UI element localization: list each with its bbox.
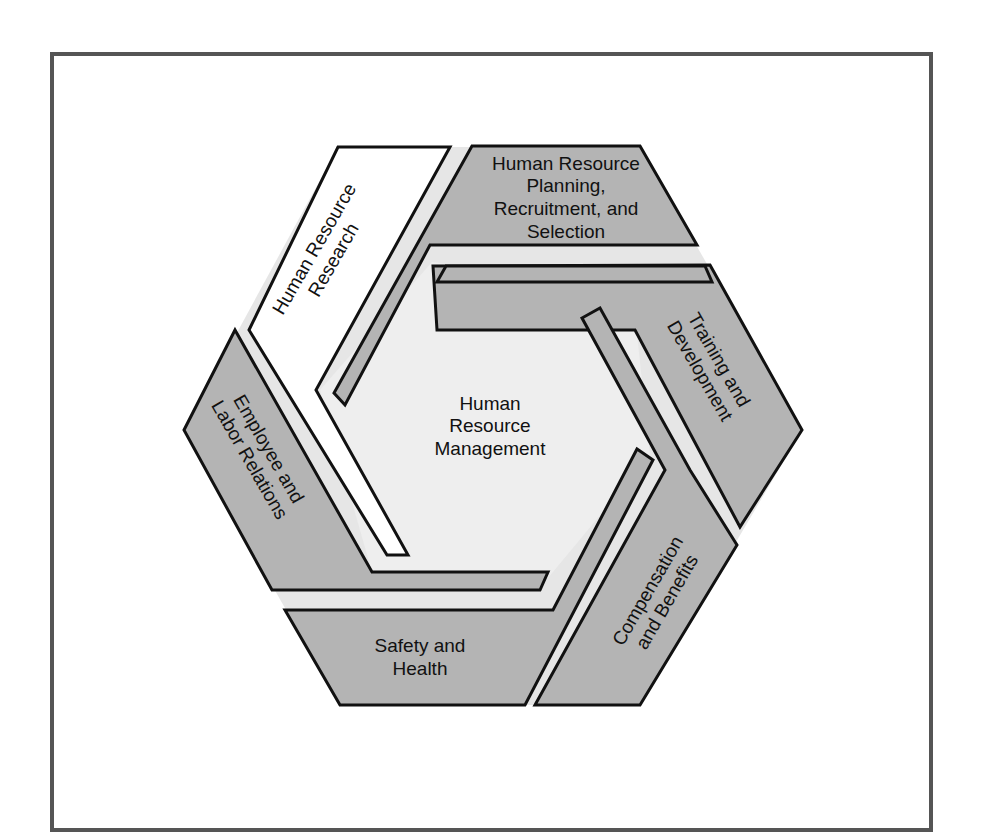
svg-text:Human Resource: Human Resource — [492, 153, 640, 174]
svg-text:Selection: Selection — [527, 221, 605, 242]
svg-text:Resource: Resource — [449, 415, 530, 436]
center-line-2: Resource — [449, 415, 530, 436]
segment-training-upper-bar — [437, 266, 712, 282]
center-line-1: Human — [459, 393, 520, 414]
hr-planning-line-1: Human Resource — [492, 153, 640, 174]
center-line-3: Management — [435, 438, 547, 459]
hrm-hexagon-diagram: Human Resource Management Human Resource… — [0, 0, 985, 839]
svg-text:Health: Health — [393, 658, 448, 679]
svg-text:Management: Management — [435, 438, 547, 459]
svg-text:Planning,: Planning, — [526, 175, 605, 196]
safety-line-2: Health — [393, 658, 448, 679]
hr-planning-line-4: Selection — [527, 221, 605, 242]
safety-line-1: Safety and — [375, 635, 466, 656]
hr-planning-line-2: Planning, — [526, 175, 605, 196]
svg-text:Recruitment, and: Recruitment, and — [494, 198, 639, 219]
hr-planning-line-3: Recruitment, and — [494, 198, 639, 219]
svg-text:Human: Human — [459, 393, 520, 414]
svg-text:Safety and: Safety and — [375, 635, 466, 656]
